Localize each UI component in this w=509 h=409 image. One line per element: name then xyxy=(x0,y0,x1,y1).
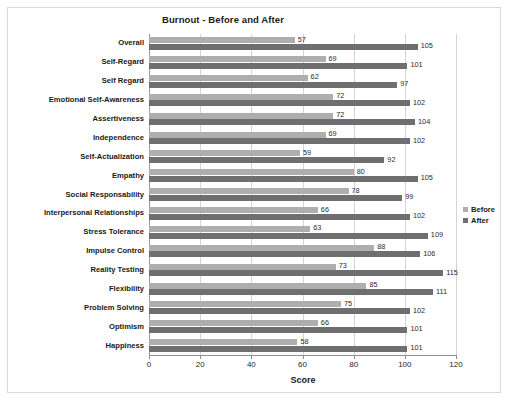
category-label-social-responsability: Social Responsability xyxy=(9,191,149,199)
bar-after-flexibility xyxy=(149,289,433,295)
bar-before-impulse-control xyxy=(149,245,374,251)
bar-value-after-self-regard: 101 xyxy=(410,61,422,68)
x-tick-label-60: 60 xyxy=(283,360,323,369)
x-tick-100 xyxy=(405,355,406,359)
legend-label-before: Before xyxy=(471,204,495,215)
bar-value-after-independence: 102 xyxy=(413,137,425,144)
category-label-empathy: Empathy xyxy=(9,172,149,180)
bar-before-interpersonal-relationships xyxy=(149,207,318,213)
category-label-emotional-self-awareness: Emotional Self-Awareness xyxy=(9,96,149,104)
x-tick-label-80: 80 xyxy=(334,360,374,369)
chart-container: Burnout - Before and After OverallSelf-R… xyxy=(7,7,501,393)
bar-value-before-self-regard: 69 xyxy=(329,55,337,62)
bar-before-problem-solving xyxy=(149,301,341,307)
bar-after-empathy xyxy=(149,176,418,182)
x-tick-60 xyxy=(303,355,304,359)
legend-label-after: After xyxy=(471,215,489,226)
x-tick-0 xyxy=(149,355,150,359)
category-label-self-actualization: Self-Actualization xyxy=(9,153,149,161)
category-label-happiness: Happiness xyxy=(9,342,149,350)
category-label-interpersonal-relationships: Interpersonal Relationships xyxy=(9,209,149,217)
bar-after-social-responsability xyxy=(149,195,402,201)
x-tick-label-20: 20 xyxy=(180,360,220,369)
x-tick-label-40: 40 xyxy=(231,360,271,369)
bar-value-before-optimism: 66 xyxy=(321,319,329,326)
bar-after-interpersonal-relationships xyxy=(149,214,410,220)
bar-after-overall xyxy=(149,44,418,50)
bar-value-after-self-regard: 97 xyxy=(400,80,408,87)
category-label-impulse-control: Impulse Control xyxy=(9,247,149,255)
bar-value-after-happiness: 101 xyxy=(410,344,422,351)
bar-before-assertiveness xyxy=(149,113,333,119)
legend-item-before: Before xyxy=(463,204,495,215)
bar-before-overall xyxy=(149,37,295,43)
x-tick-label-120: 120 xyxy=(436,360,476,369)
x-tick-20 xyxy=(200,355,201,359)
bar-value-after-social-responsability: 99 xyxy=(405,193,413,200)
x-tick-label-0: 0 xyxy=(129,360,169,369)
bar-after-happiness xyxy=(149,346,407,352)
category-label-stress-tolerance: Stress Tolerance xyxy=(9,228,149,236)
bar-value-after-interpersonal-relationships: 102 xyxy=(413,212,425,219)
category-label-independence: Independence xyxy=(9,134,149,142)
legend-item-after: After xyxy=(463,215,495,226)
bar-after-impulse-control xyxy=(149,251,420,257)
bar-before-optimism xyxy=(149,320,318,326)
category-label-optimism: Optimism xyxy=(9,323,149,331)
x-tick-80 xyxy=(354,355,355,359)
bar-after-reality-testing xyxy=(149,270,443,276)
bar-after-optimism xyxy=(149,327,407,333)
category-label-problem-solving: Problem Solving xyxy=(9,304,149,312)
bar-value-before-problem-solving: 75 xyxy=(344,300,352,307)
bar-before-empathy xyxy=(149,169,354,175)
bar-value-before-assertiveness: 72 xyxy=(336,111,344,118)
bar-value-before-self-actualization: 59 xyxy=(303,149,311,156)
bar-after-problem-solving xyxy=(149,308,410,314)
category-label-overall: Overall xyxy=(9,39,149,47)
bar-value-before-reality-testing: 73 xyxy=(339,262,347,269)
category-label-self-regard: Self-Regard xyxy=(9,58,149,66)
legend-swatch-after-icon xyxy=(463,218,468,223)
category-axis-labels: OverallSelf-RegardSelf RegardEmotional S… xyxy=(8,34,149,355)
bar-value-after-assertiveness: 104 xyxy=(418,118,430,125)
bar-value-after-flexibility: 111 xyxy=(436,288,447,295)
bar-after-self-regard xyxy=(149,82,397,88)
bar-before-self-actualization xyxy=(149,150,300,156)
bar-value-before-social-responsability: 78 xyxy=(352,187,360,194)
bar-before-social-responsability xyxy=(149,188,349,194)
bar-before-self-regard xyxy=(149,75,308,81)
plot-area: 5710569101629772102721046910259928010578… xyxy=(149,34,456,355)
bar-after-self-actualization xyxy=(149,157,384,163)
bar-after-emotional-self-awareness xyxy=(149,100,410,106)
bar-before-independence xyxy=(149,132,326,138)
bar-after-self-regard xyxy=(149,63,407,69)
bar-after-stress-tolerance xyxy=(149,233,428,239)
bar-after-assertiveness xyxy=(149,119,415,125)
bar-before-flexibility xyxy=(149,283,366,289)
bar-after-independence xyxy=(149,138,410,144)
x-axis-title: Score xyxy=(149,375,457,385)
bar-value-before-impulse-control: 88 xyxy=(377,243,385,250)
bar-value-before-emotional-self-awareness: 72 xyxy=(336,92,344,99)
legend-swatch-before-icon xyxy=(463,207,468,212)
chart-legend: Before After xyxy=(463,204,495,226)
bar-value-before-happiness: 58 xyxy=(300,338,308,345)
bar-value-before-self-regard: 62 xyxy=(311,73,319,80)
category-label-assertiveness: Assertiveness xyxy=(9,115,149,123)
bar-value-after-optimism: 101 xyxy=(410,325,422,332)
bar-value-after-empathy: 105 xyxy=(421,174,433,181)
bar-value-before-flexibility: 85 xyxy=(369,281,377,288)
bar-value-after-overall: 105 xyxy=(421,42,433,49)
bar-value-after-stress-tolerance: 109 xyxy=(431,231,443,238)
category-label-reality-testing: Reality Testing xyxy=(9,266,149,274)
bar-value-after-impulse-control: 106 xyxy=(423,250,435,257)
bar-before-stress-tolerance xyxy=(149,226,310,232)
bar-before-reality-testing xyxy=(149,264,336,270)
bar-before-happiness xyxy=(149,339,297,345)
bar-before-self-regard xyxy=(149,56,326,62)
bar-value-after-emotional-self-awareness: 102 xyxy=(413,99,425,106)
x-tick-120 xyxy=(456,355,457,359)
bar-before-emotional-self-awareness xyxy=(149,94,333,100)
category-label-self-regard: Self Regard xyxy=(9,77,149,85)
bar-value-after-reality-testing: 115 xyxy=(446,269,458,276)
